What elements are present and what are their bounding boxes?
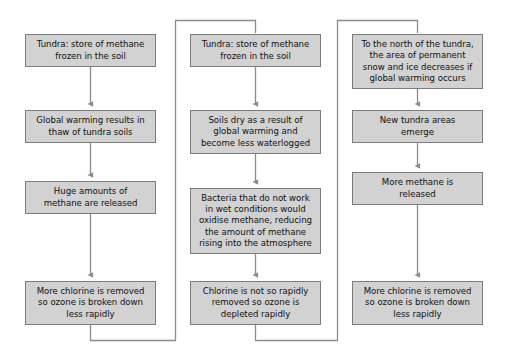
node-tundra-methane-store-2[interactable]: Tundra: store of methane frozen in the s… [190, 34, 321, 67]
node-label: New tundra areas emerge [380, 115, 456, 137]
node-label: Chlorine is not so rapidly removed so oz… [203, 286, 309, 320]
node-label: To the north of the tundra, the area of … [361, 39, 473, 84]
node-label: Tundra: store of methane frozen in the s… [202, 39, 309, 61]
node-label: Tundra: store of methane frozen in the s… [37, 39, 144, 61]
node-chlorine-removed-ozone-slow-1[interactable]: More chlorine is removed so ozone is bro… [25, 281, 156, 325]
node-label: More methane is released [382, 177, 453, 199]
node-label: Huge amounts of methane are released [44, 186, 138, 208]
node-label: Soils dry as a result of global warming … [201, 115, 310, 149]
node-label: More chlorine is removed so ozone is bro… [37, 286, 145, 320]
node-label: More chlorine is removed so ozone is bro… [364, 286, 472, 320]
node-global-warming-thaw[interactable]: Global warming results in thaw of tundra… [25, 110, 156, 143]
node-label: Bacteria that do not work in wet conditi… [199, 193, 312, 249]
node-methane-released[interactable]: Huge amounts of methane are released [25, 181, 156, 214]
node-new-tundra-areas-emerge[interactable]: New tundra areas emerge [352, 110, 483, 143]
node-chlorine-removed-ozone-slow-2[interactable]: More chlorine is removed so ozone is bro… [352, 281, 483, 325]
node-label: Global warming results in thaw of tundra… [36, 115, 144, 137]
flowchart-canvas: Tundra: store of methane frozen in the s… [0, 0, 508, 363]
node-bacteria-oxidise-methane[interactable]: Bacteria that do not work in wet conditi… [190, 188, 321, 254]
node-permanent-snow-ice-decreases[interactable]: To the north of the tundra, the area of … [352, 34, 483, 89]
node-chlorine-not-removed-ozone-depleted[interactable]: Chlorine is not so rapidly removed so oz… [190, 281, 321, 325]
node-tundra-methane-store-1[interactable]: Tundra: store of methane frozen in the s… [25, 34, 156, 67]
node-soils-dry-waterlogged[interactable]: Soils dry as a result of global warming … [190, 110, 321, 154]
node-more-methane-released[interactable]: More methane is released [352, 172, 483, 205]
